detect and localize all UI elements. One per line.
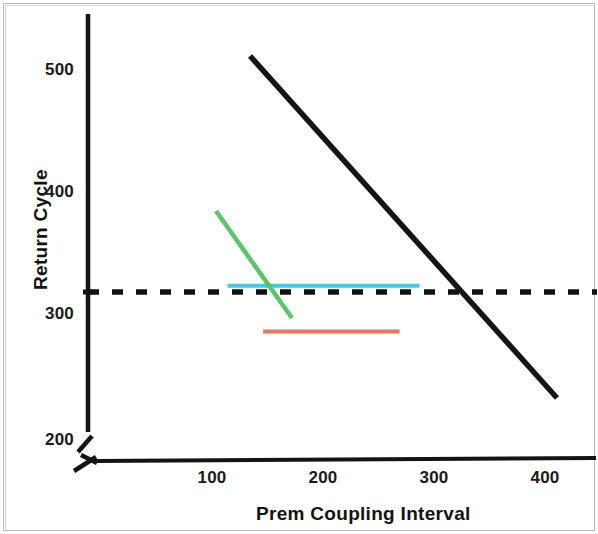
x-axis-title: Prem Coupling Interval: [256, 503, 471, 525]
x-tick-label-100: 100: [186, 468, 238, 488]
y-tick-label-500: 500: [28, 60, 74, 80]
y-axis-title: Return Cycle: [30, 169, 52, 290]
chart-figure: 500 400 300 200 100 200 300 400 Return C…: [0, 0, 598, 534]
x-axis-spine: [95, 458, 596, 461]
x-tick-label-200: 200: [297, 468, 349, 488]
y-axis-break-mark: [78, 436, 92, 452]
y-tick-label-300: 300: [28, 304, 74, 324]
green-sloped-line: [216, 211, 292, 318]
black-sloped-line: [250, 56, 557, 398]
x-tick-label-300: 300: [408, 468, 460, 488]
x-tick-label-400: 400: [519, 468, 571, 488]
y-tick-label-200: 200: [28, 430, 74, 450]
plot-canvas: [0, 0, 598, 534]
